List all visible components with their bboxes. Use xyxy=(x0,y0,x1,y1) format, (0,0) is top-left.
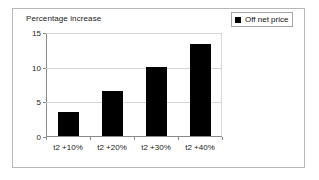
x-axis-label: t2 +30% xyxy=(141,143,171,152)
x-axis-label: t2 +10% xyxy=(53,143,83,152)
chart-figure: Percentage increase Off net price 051015… xyxy=(0,0,319,180)
bar-series-off-net-price xyxy=(46,33,222,137)
x-tick-mark xyxy=(134,137,135,140)
x-axis-line xyxy=(46,136,222,137)
x-tick-mark xyxy=(178,137,179,140)
legend-label-off-net-price: Off net price xyxy=(245,16,288,24)
y-tick-label-15: 15 xyxy=(32,29,41,38)
bar xyxy=(58,112,79,136)
x-tick-mark xyxy=(90,137,91,140)
x-tick-mark xyxy=(222,137,223,140)
chart-title: Percentage increase xyxy=(26,14,101,23)
y-tick-label-5: 5 xyxy=(37,98,41,107)
bar xyxy=(190,44,211,136)
x-tick-mark xyxy=(46,137,47,140)
y-tick-label-10: 10 xyxy=(32,64,41,73)
y-tick-label-0: 0 xyxy=(37,133,41,142)
x-axis-label: t2 +20% xyxy=(97,143,127,152)
x-axis-labels: t2 +10%t2 +20%t2 +30%t2 +40% xyxy=(46,143,222,157)
plot-area: 051015 xyxy=(46,33,222,137)
bar xyxy=(146,67,167,136)
chart-legend: Off net price xyxy=(231,12,293,27)
x-axis-label: t2 +40% xyxy=(185,143,215,152)
legend-swatch-off-net-price xyxy=(235,17,241,23)
bar xyxy=(102,91,123,136)
